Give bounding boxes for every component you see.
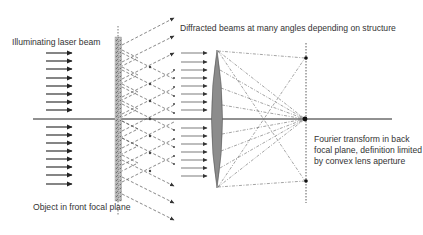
lower-focal-spot xyxy=(304,179,308,183)
upper-focal-spot xyxy=(304,56,308,60)
label-diffracted-beams: Diffracted beams at many angles dependin… xyxy=(180,23,396,34)
label-object-front-focal-plane: Object in front focal plane xyxy=(33,202,130,213)
label-fourier-transform: Fourier transform in back focal plane, d… xyxy=(314,134,422,167)
object-slide xyxy=(115,26,122,215)
focal-spots xyxy=(303,56,308,183)
diagram-canvas xyxy=(0,0,423,235)
parallel-beams-to-lens xyxy=(181,53,207,176)
label-illuminating-laser-beam: Illuminating laser beam xyxy=(12,37,100,48)
central-focal-spot xyxy=(303,117,308,122)
optics-diagram: Illuminating laser beam Diffracted beams… xyxy=(0,0,423,235)
